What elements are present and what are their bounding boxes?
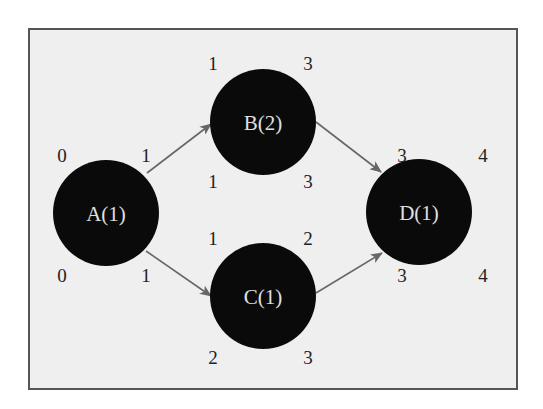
node-c-bottom-right-number: 3 [303, 347, 313, 368]
edge-c-to-d [316, 253, 382, 293]
edge-b-to-d [316, 122, 381, 172]
node-a-top-left-number: 0 [57, 145, 67, 166]
node-b-bottom-left-number: 1 [208, 171, 218, 192]
node-d-bottom-left-number: 3 [397, 265, 407, 286]
node-c-label: C(1) [244, 285, 283, 309]
node-b-bottom-right-number: 3 [303, 171, 313, 192]
node-c-top-left-number: 1 [208, 228, 218, 249]
edge-a-to-c [146, 251, 211, 296]
node-a-label: A(1) [86, 202, 126, 226]
network-diagram: A(1) 0 1 0 1 B(2) 1 3 1 3 C(1) 1 2 2 3 D… [0, 0, 543, 409]
node-b-top-right-number: 3 [303, 53, 313, 74]
node-d-bottom-right-number: 4 [478, 265, 488, 286]
node-d-top-left-number: 3 [397, 145, 407, 166]
node-a-bottom-left-number: 0 [57, 265, 67, 286]
node-a-bottom-right-number: 1 [141, 265, 151, 286]
node-d: D(1) 3 4 3 4 [366, 145, 488, 286]
node-a: A(1) 0 1 0 1 [53, 145, 159, 286]
node-b-label: B(2) [244, 111, 283, 135]
node-b: B(2) 1 3 1 3 [208, 53, 316, 192]
node-d-top-right-number: 4 [478, 145, 488, 166]
node-a-top-right-number: 1 [141, 145, 151, 166]
node-c-top-right-number: 2 [303, 228, 313, 249]
edge-a-to-b [147, 124, 211, 173]
node-d-label: D(1) [399, 201, 439, 225]
node-c: C(1) 1 2 2 3 [208, 228, 316, 368]
node-b-top-left-number: 1 [208, 53, 218, 74]
node-c-bottom-left-number: 2 [208, 347, 218, 368]
